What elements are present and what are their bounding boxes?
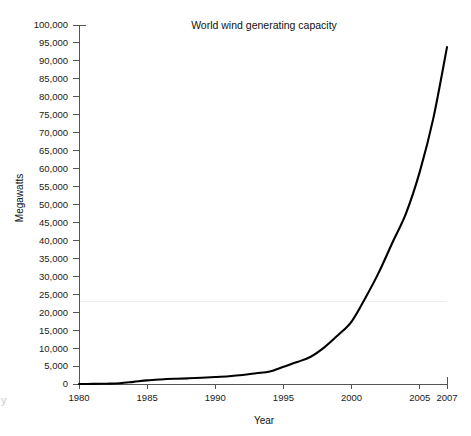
y-tick-label: 60,000 <box>39 163 68 174</box>
y-tick-label: 80,000 <box>39 91 68 102</box>
y-axis-tick-marks <box>73 25 79 384</box>
chart-page: World wind generating capacity 05,00010,… <box>0 0 471 436</box>
y-tick-label: 20,000 <box>39 307 68 318</box>
y-axis-title: Megawatts <box>14 174 25 222</box>
y-tick-label: 25,000 <box>39 289 68 300</box>
x-tick-label: 1985 <box>137 392 158 403</box>
chart-title: World wind generating capacity <box>191 19 337 31</box>
y-tick-label: 30,000 <box>39 271 68 282</box>
y-tick-label: 50,000 <box>39 199 68 210</box>
cropped-corner-glyph: y <box>1 394 7 406</box>
y-tick-label: 70,000 <box>39 127 68 138</box>
y-tick-label: 35,000 <box>39 253 68 264</box>
y-tick-label: 90,000 <box>39 55 68 66</box>
x-axis-title: Year <box>254 415 275 426</box>
x-tick-label: 1990 <box>205 392 226 403</box>
capacity-series-line <box>79 47 447 384</box>
x-tick-label: 2007 <box>436 392 457 403</box>
y-tick-label: 95,000 <box>39 37 68 48</box>
x-tick-label: 1980 <box>68 392 89 403</box>
y-tick-label: 65,000 <box>39 145 68 156</box>
x-axis-tick-labels: 1980198519901995200020052007 <box>68 392 457 403</box>
wind-capacity-line-chart: World wind generating capacity 05,00010,… <box>0 0 471 436</box>
y-tick-label: 15,000 <box>39 325 68 336</box>
y-tick-label: 75,000 <box>39 109 68 120</box>
y-tick-label: 40,000 <box>39 235 68 246</box>
y-tick-label: 5,000 <box>44 360 68 371</box>
y-tick-label: 85,000 <box>39 73 68 84</box>
x-axis-tick-marks <box>79 384 447 389</box>
x-tick-label: 1995 <box>273 392 294 403</box>
y-tick-label: 45,000 <box>39 217 68 228</box>
x-tick-label: 2005 <box>409 392 430 403</box>
y-tick-label: 100,000 <box>34 19 68 30</box>
y-axis-tick-labels: 05,00010,00015,00020,00025,00030,00035,0… <box>34 19 68 389</box>
y-tick-label: 10,000 <box>39 343 68 354</box>
y-tick-label: 55,000 <box>39 181 68 192</box>
y-tick-label: 0 <box>63 378 68 389</box>
x-tick-label: 2000 <box>341 392 362 403</box>
